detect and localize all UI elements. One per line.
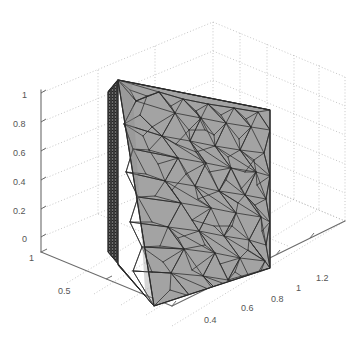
- z-tick-label: 0.8: [13, 119, 26, 129]
- figure-canvas: 1 0.8 0.6 0.4 0.2 0 1 0.5 0.4 0.6 0.8 1 …: [0, 0, 355, 337]
- z-tick-label: 0.2: [13, 206, 26, 216]
- y-tick-label: 1: [29, 253, 34, 263]
- x-tick-label: 0.6: [241, 303, 254, 313]
- z-tick-label: 0.6: [13, 148, 26, 158]
- y-tick-label: 0.5: [58, 286, 71, 296]
- x-tick-label: 1: [296, 283, 301, 293]
- x-tick-label: 0.4: [204, 315, 217, 325]
- x-tick-label: 1.2: [316, 273, 329, 283]
- mesh-front-face: [118, 80, 270, 306]
- z-tick-label: 1: [22, 90, 27, 100]
- x-tick-label: 0.8: [271, 294, 284, 304]
- z-tick-label: 0: [22, 234, 27, 244]
- mesh-plot-svg: [0, 0, 355, 337]
- z-tick-label: 0.4: [13, 177, 26, 187]
